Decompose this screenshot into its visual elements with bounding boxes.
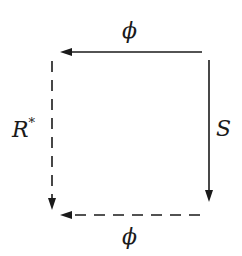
right-arrow-label: S	[216, 118, 231, 140]
left-label-main: R	[12, 117, 29, 142]
bottom-arrow-label: ϕ	[122, 226, 137, 248]
top-arrowhead-icon	[60, 48, 72, 56]
left-arrowhead-icon	[48, 198, 56, 210]
top-arrow-label: ϕ	[122, 20, 137, 42]
left-label-superscript: *	[29, 115, 36, 130]
left-arrow-label: R*	[12, 118, 35, 141]
right-arrowhead-icon	[205, 190, 213, 202]
commutative-diagram: ϕ ϕ R* S	[0, 0, 242, 256]
diagram-arrows	[0, 0, 242, 256]
bottom-arrowhead-icon	[60, 211, 72, 219]
